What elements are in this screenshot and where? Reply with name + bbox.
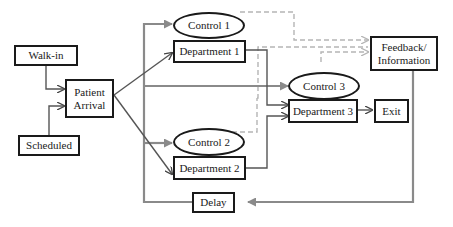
delay-box: Delay xyxy=(192,192,235,213)
control-2-ellipse: Control 2 xyxy=(173,128,245,156)
feedback-label-2: Information xyxy=(378,54,431,67)
control-3-ellipse: Control 3 xyxy=(288,72,360,100)
feedback-information-box: Feedback/ Information xyxy=(370,36,438,71)
patient-arrival-label-1: Patient xyxy=(74,86,105,99)
scheduled-box: Scheduled xyxy=(18,135,80,156)
control-3-label: Control 3 xyxy=(303,80,345,93)
department-1-label: Department 1 xyxy=(179,45,239,58)
department-2-label: Department 2 xyxy=(179,162,239,175)
feedback-label-1: Feedback/ xyxy=(381,41,426,54)
scheduled-label: Scheduled xyxy=(26,139,72,152)
exit-box: Exit xyxy=(374,99,409,123)
walk-in-label: Walk-in xyxy=(28,49,63,62)
department-2-box: Department 2 xyxy=(173,156,246,180)
control-1-label: Control 1 xyxy=(188,19,230,32)
patient-arrival-label-2: Arrival xyxy=(74,99,106,112)
patient-arrival-box: Patient Arrival xyxy=(65,79,114,118)
delay-label: Delay xyxy=(200,196,226,209)
walk-in-box: Walk-in xyxy=(14,45,78,66)
control-1-ellipse: Control 1 xyxy=(173,12,245,39)
exit-label: Exit xyxy=(382,105,400,118)
control-2-label: Control 2 xyxy=(188,136,230,149)
department-1-box: Department 1 xyxy=(173,40,246,63)
department-3-label: Department 3 xyxy=(293,105,353,118)
department-3-box: Department 3 xyxy=(288,99,358,123)
